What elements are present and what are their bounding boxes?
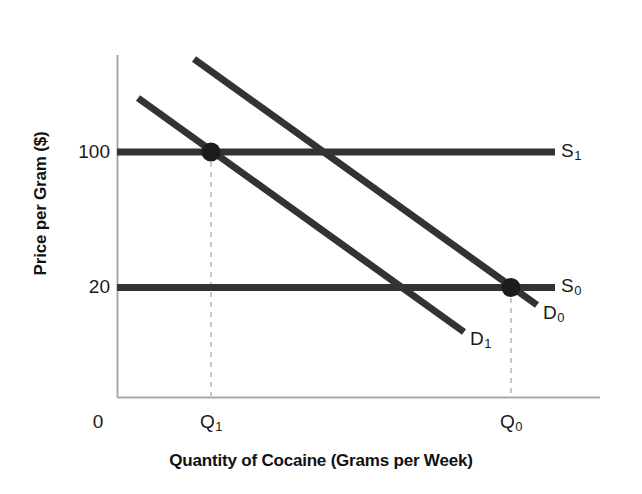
curve-label-s0: S0: [561, 276, 581, 295]
curve-label-s1-subscript: 1: [574, 148, 581, 163]
x-tick-label-q0-base: Q: [500, 411, 515, 432]
curve-label-s1-base: S: [561, 140, 574, 161]
x-tick-label-q0: Q0: [491, 412, 531, 431]
demand-curve-d0: [194, 59, 537, 305]
curve-label-d0-base: D: [543, 302, 557, 323]
curve-label-d0: D0: [543, 303, 564, 322]
curve-label-s0-subscript: 0: [574, 283, 581, 298]
y-tick-label-100: 100: [62, 142, 110, 161]
curve-label-d1-base: D: [470, 328, 484, 349]
y-tick-label-20: 20: [62, 277, 110, 296]
curve-label-d0-subscript: 0: [557, 310, 564, 325]
x-axis-title: Quantity of Cocaine (Grams per Week): [0, 452, 642, 469]
curve-label-s1: S1: [561, 141, 581, 160]
x-tick-label-q1-subscript: 1: [215, 419, 222, 434]
y-axis-title-container: Price per Gram ($): [0, 0, 40, 420]
origin-label: 0: [78, 412, 118, 431]
supply-demand-figure: 100 20 0 S1 S0 D0 D1 Q1 Q0 Price per Gra…: [0, 0, 642, 494]
curve-label-d1: D1: [470, 329, 491, 348]
equilibrium-point-q1: [202, 143, 221, 162]
curve-label-s0-base: S: [561, 275, 574, 296]
curve-label-d1-subscript: 1: [484, 336, 491, 351]
y-axis-title: Price per Gram ($): [32, 64, 49, 344]
x-tick-label-q1: Q1: [191, 412, 231, 431]
x-tick-label-q1-base: Q: [200, 411, 215, 432]
equilibrium-point-q0: [502, 278, 521, 297]
x-tick-label-q0-subscript: 0: [515, 419, 522, 434]
